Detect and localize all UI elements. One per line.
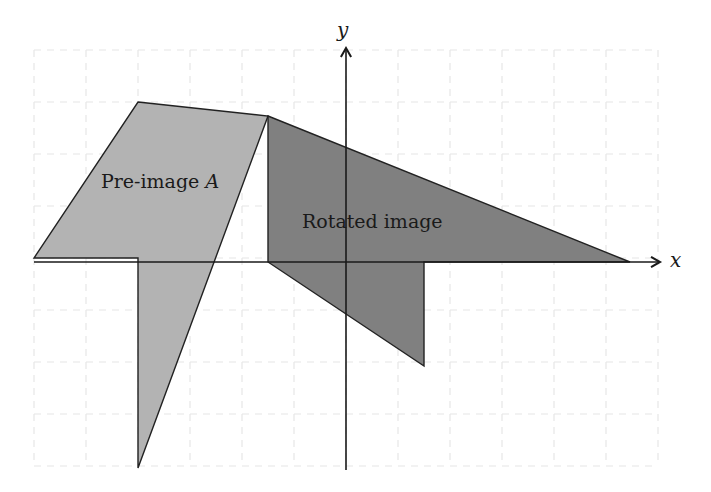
y-axis-label: y: [337, 18, 348, 42]
x-axis-label: x: [670, 248, 681, 272]
rotation-diagram: y x Pre-image A Rotated image: [0, 0, 711, 492]
pre-image-label-text: Pre-image: [101, 170, 205, 192]
rotated-image-polygon: [268, 116, 630, 366]
pre-image-label-var: A: [205, 170, 219, 192]
pre-image-label: Pre-image A: [101, 170, 219, 192]
rotated-image-label: Rotated image: [302, 210, 443, 232]
pre-image-a-polygon: [34, 102, 268, 468]
coordinate-plane: [0, 0, 711, 492]
